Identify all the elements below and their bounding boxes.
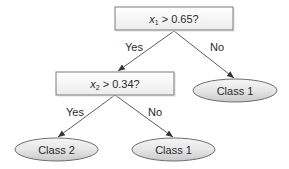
decision-tree-diagram: Yes No Yes No x1 > 0.65? x2 > 0.34? [0, 0, 289, 169]
edge-split2-no: No [115, 95, 173, 137]
decision-node-root: x1 > 0.65? [115, 7, 235, 32]
edge-label-no: No [148, 106, 162, 118]
edge-label-yes: Yes [125, 41, 143, 53]
leaf-node-class-1-right: Class 1 [193, 79, 277, 102]
leaf-node-label: Class 2 [38, 144, 75, 156]
edge-root-yes: Yes [118, 31, 174, 71]
leaf-node-label: Class 1 [155, 144, 192, 156]
edge-label-yes: Yes [66, 106, 84, 118]
decision-node-split2: x2 > 0.34? [56, 72, 176, 97]
leaf-node-class-2: Class 2 [15, 138, 98, 161]
edge-split2-yes: Yes [58, 95, 115, 137]
edge-root-no: No [174, 31, 234, 78]
leaf-node-class-1-bottom: Class 1 [132, 138, 215, 161]
leaf-node-label: Class 1 [217, 85, 254, 97]
edge-label-no: No [210, 41, 224, 53]
